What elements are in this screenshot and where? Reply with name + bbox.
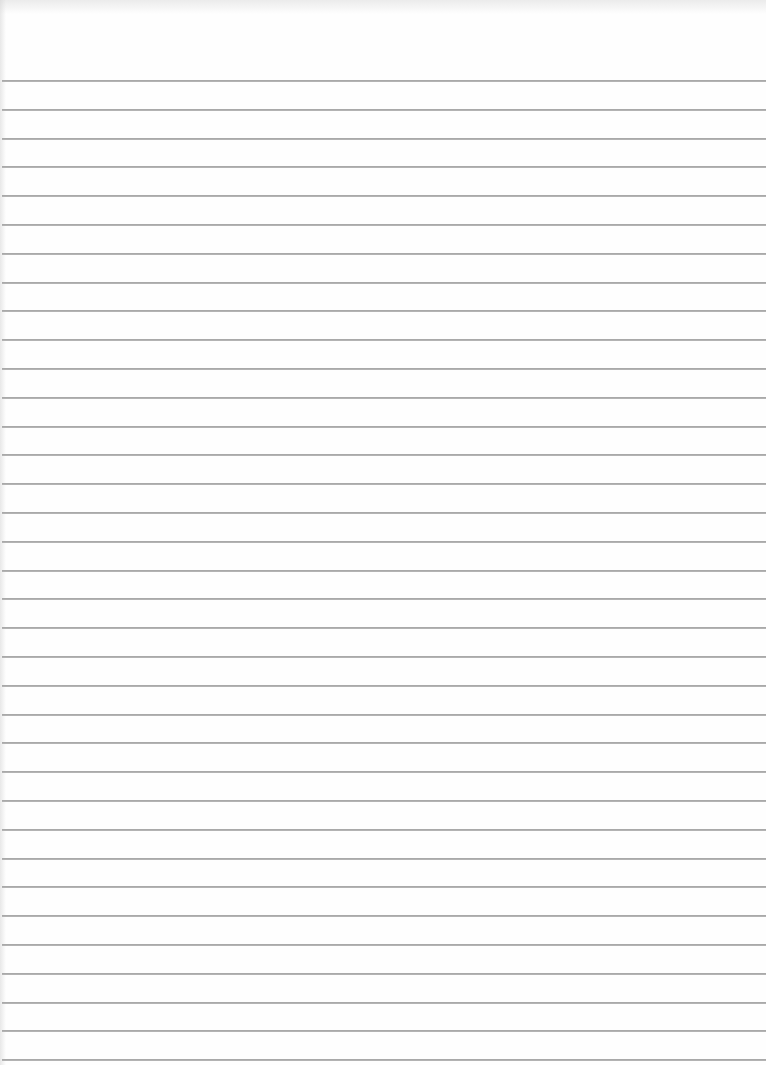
ruled-line (2, 973, 766, 975)
ruled-line (2, 512, 766, 514)
ruled-line (2, 800, 766, 802)
ruled-line (2, 253, 766, 255)
ruled-line (2, 685, 766, 687)
ruled-line (2, 282, 766, 284)
ruled-line (2, 224, 766, 226)
ruled-line (2, 598, 766, 600)
ruled-line (2, 138, 766, 140)
ruled-line (2, 483, 766, 485)
ruled-line (2, 714, 766, 716)
ruled-line (2, 915, 766, 917)
scan-left-edge (0, 0, 6, 1065)
ruled-line (2, 858, 766, 860)
ruled-line (2, 1002, 766, 1004)
ruled-line (2, 541, 766, 543)
ruled-line (2, 339, 766, 341)
ruled-line (2, 195, 766, 197)
ruled-line (2, 426, 766, 428)
ruled-line (2, 368, 766, 370)
ruled-line (2, 627, 766, 629)
ruled-line (2, 454, 766, 456)
ruled-line (2, 829, 766, 831)
scan-top-edge (0, 0, 766, 14)
ruled-line (2, 1030, 766, 1032)
ruled-line (2, 109, 766, 111)
ruled-line (2, 656, 766, 658)
ruled-line (2, 570, 766, 572)
ruled-line (2, 1059, 766, 1061)
ruled-line (2, 166, 766, 168)
ruled-line (2, 886, 766, 888)
ruled-line (2, 944, 766, 946)
ruled-line (2, 80, 766, 82)
ruled-line (2, 397, 766, 399)
lined-paper-page (0, 0, 766, 1065)
ruled-line (2, 310, 766, 312)
ruled-line (2, 771, 766, 773)
ruled-line (2, 742, 766, 744)
